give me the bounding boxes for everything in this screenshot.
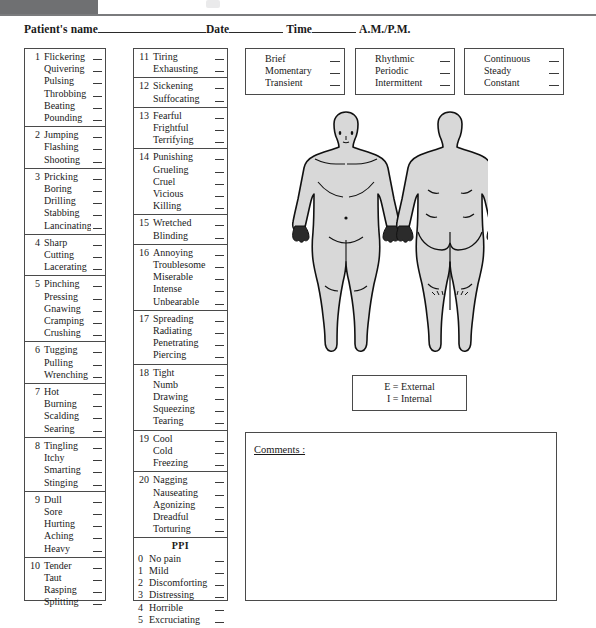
descriptor-rating-line[interactable] (93, 460, 102, 461)
descriptor-rating-line[interactable] (330, 73, 340, 74)
descriptor-rating-line[interactable] (215, 375, 224, 376)
descriptor-rating-line[interactable] (93, 228, 102, 229)
descriptor-rating-line[interactable] (215, 573, 224, 574)
descriptor-row[interactable]: Taut (25, 572, 105, 584)
descriptor-rating-line[interactable] (215, 482, 224, 483)
descriptor-row[interactable]: Squeezing (134, 403, 227, 415)
descriptor-row[interactable]: Burning (25, 398, 105, 410)
descriptor-row[interactable]: Piercing (134, 349, 227, 361)
descriptor-row[interactable]: Agonizing (134, 499, 227, 511)
descriptor-rating-line[interactable] (93, 592, 102, 593)
descriptor-row[interactable]: Blinding (134, 230, 227, 242)
descriptor-row[interactable]: Torturing (134, 523, 227, 535)
descriptor-row[interactable]: Grueling (134, 164, 227, 176)
descriptor-row[interactable]: Wrenching (25, 369, 105, 381)
descriptor-rating-line[interactable] (93, 323, 102, 324)
descriptor-rating-line[interactable] (93, 179, 102, 180)
descriptor-row[interactable]: Itchy (25, 452, 105, 464)
descriptor-rating-line[interactable] (215, 387, 224, 388)
descriptor-row[interactable]: Stinging (25, 477, 105, 489)
descriptor-row[interactable]: Unbearable (134, 296, 227, 308)
descriptor-row[interactable]: Suffocating (134, 93, 227, 105)
descriptor-row[interactable]: Pulsing (25, 75, 105, 87)
descriptor-rating-line[interactable] (215, 495, 224, 496)
descriptor-rating-line[interactable] (93, 502, 102, 503)
descriptor-rating-line[interactable] (215, 291, 224, 292)
descriptor-row[interactable]: 20Nagging (134, 474, 227, 486)
descriptor-rating-line[interactable] (215, 71, 224, 72)
descriptor-rating-line[interactable] (93, 137, 102, 138)
descriptor-row[interactable]: Cold (134, 445, 227, 457)
descriptor-rating-line[interactable] (215, 304, 224, 305)
descriptor-rating-line[interactable] (93, 311, 102, 312)
descriptor-rating-line[interactable] (215, 225, 224, 226)
descriptor-rating-line[interactable] (215, 561, 224, 562)
descriptor-rating-line[interactable] (93, 485, 102, 486)
descriptor-rating-line[interactable] (93, 286, 102, 287)
descriptor-rating-line[interactable] (330, 61, 340, 62)
descriptor-rating-line[interactable] (549, 85, 559, 86)
ppi-row[interactable]: 5Excruciating (134, 614, 227, 626)
descriptor-rating-line[interactable] (93, 162, 102, 163)
descriptor-row[interactable]: Gnawing (25, 303, 105, 315)
descriptor-rating-line[interactable] (215, 118, 224, 119)
descriptor-row[interactable]: Penetrating (134, 337, 227, 349)
descriptor-row[interactable]: 9Dull (25, 494, 105, 506)
descriptor-rating-line[interactable] (215, 333, 224, 334)
descriptor-row[interactable]: Shooting (25, 154, 105, 166)
descriptor-rating-line[interactable] (215, 101, 224, 102)
descriptor-rating-line[interactable] (93, 83, 102, 84)
descriptor-rating-line[interactable] (93, 108, 102, 109)
descriptor-rating-line[interactable] (215, 453, 224, 454)
descriptor-rating-line[interactable] (93, 394, 102, 395)
temporal-row[interactable]: Momentary (252, 65, 340, 77)
descriptor-rating-line[interactable] (215, 159, 224, 160)
descriptor-row[interactable]: Heavy (25, 543, 105, 555)
descriptor-row[interactable]: 15Wretched (134, 217, 227, 229)
descriptor-rating-line[interactable] (549, 61, 559, 62)
descriptor-rating-line[interactable] (215, 255, 224, 256)
descriptor-rating-line[interactable] (330, 85, 340, 86)
descriptor-rating-line[interactable] (215, 585, 224, 586)
descriptor-rating-line[interactable] (215, 531, 224, 532)
temporal-row[interactable]: Continuous (471, 53, 559, 65)
descriptor-row[interactable]: Scalding (25, 410, 105, 422)
descriptor-row[interactable]: Vicious (134, 188, 227, 200)
descriptor-rating-line[interactable] (93, 604, 102, 605)
descriptor-rating-line[interactable] (215, 345, 224, 346)
descriptor-row[interactable]: 3Pricking (25, 171, 105, 183)
descriptor-row[interactable]: Boring (25, 183, 105, 195)
temporal-row[interactable]: Intermittent (362, 77, 450, 89)
descriptor-row[interactable]: 18Tight (134, 367, 227, 379)
descriptor-rating-line[interactable] (215, 59, 224, 60)
descriptor-rating-line[interactable] (215, 142, 224, 143)
descriptor-row[interactable]: 8Tingling (25, 440, 105, 452)
descriptor-rating-line[interactable] (93, 269, 102, 270)
descriptor-row[interactable]: 12Sickening (134, 80, 227, 92)
descriptor-row[interactable]: Lacerating (25, 261, 105, 273)
descriptor-rating-line[interactable] (93, 257, 102, 258)
descriptor-row[interactable]: Miserable (134, 271, 227, 283)
ppi-row[interactable]: 2Discomforting (134, 577, 227, 589)
descriptor-row[interactable]: Pressing (25, 291, 105, 303)
descriptor-rating-line[interactable] (93, 568, 102, 569)
descriptor-rating-line[interactable] (93, 191, 102, 192)
descriptor-rating-line[interactable] (215, 441, 224, 442)
descriptor-rating-line[interactable] (93, 215, 102, 216)
descriptor-rating-line[interactable] (93, 96, 102, 97)
descriptor-row[interactable]: Drilling (25, 195, 105, 207)
body-diagram-group[interactable] (288, 110, 488, 358)
descriptor-row[interactable]: 7Hot (25, 386, 105, 398)
descriptor-rating-line[interactable] (215, 597, 224, 598)
descriptor-rating-line[interactable] (215, 610, 224, 611)
descriptor-row[interactable]: Pulling (25, 357, 105, 369)
descriptor-rating-line[interactable] (93, 203, 102, 204)
descriptor-rating-line[interactable] (215, 279, 224, 280)
descriptor-row[interactable]: Numb (134, 379, 227, 391)
ppi-row[interactable]: 4Horrible (134, 602, 227, 614)
descriptor-rating-line[interactable] (215, 184, 224, 185)
descriptor-rating-line[interactable] (215, 411, 224, 412)
descriptor-row[interactable]: 13Fearful (134, 110, 227, 122)
descriptor-rating-line[interactable] (215, 267, 224, 268)
descriptor-rating-line[interactable] (549, 73, 559, 74)
